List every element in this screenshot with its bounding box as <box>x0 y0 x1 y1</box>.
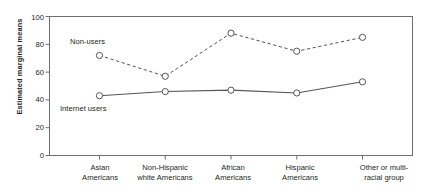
plot-area <box>0 0 428 195</box>
data-point-non-users-0 <box>96 52 102 58</box>
plot-frame <box>50 17 413 156</box>
data-point-non-users-3 <box>294 48 300 54</box>
data-point-internet-users-0 <box>96 93 102 99</box>
data-point-non-users-4 <box>359 34 365 40</box>
data-point-internet-users-4 <box>359 79 365 85</box>
data-point-non-users-1 <box>162 73 168 79</box>
data-point-non-users-2 <box>228 30 234 36</box>
data-point-internet-users-3 <box>294 90 300 96</box>
data-point-internet-users-1 <box>162 88 168 94</box>
chart-container: Estimated marginal means 100 80 60 40 20… <box>0 0 428 195</box>
data-point-internet-users-2 <box>228 87 234 93</box>
series-line-non-users <box>100 33 363 76</box>
